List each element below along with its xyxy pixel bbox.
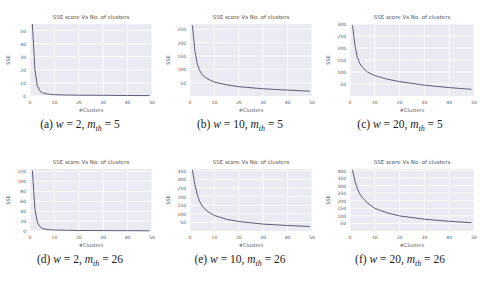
chart-title: SSE score Vs No. of clusters	[213, 14, 290, 20]
x-tick-label: 40	[446, 235, 452, 240]
y-tick-label: 40	[20, 42, 26, 47]
chart-a: 0102030405001020304050SSE score Vs No. o…	[0, 0, 160, 118]
panel-a: 0102030405001020304050SSE score Vs No. o…	[0, 0, 160, 140]
chart-d: 02040608010012001020304050SSE score Vs N…	[0, 145, 160, 253]
x-tick-label: 50	[309, 100, 315, 105]
x-axis-label: #Clusters	[79, 107, 104, 113]
chart-b: 5010015020025001020304050SSE score Vs No…	[160, 0, 320, 118]
y-tick-label: 250	[177, 186, 186, 191]
x-tick-label: 50	[149, 100, 155, 105]
y-tick-label: 50	[180, 81, 186, 86]
y-tick-label: 50	[180, 220, 186, 225]
x-tick-label: 40	[285, 100, 291, 105]
x-tick-label: 20	[76, 235, 82, 240]
chart-title: SSE score Vs No. of clusters	[53, 159, 130, 165]
y-tick-label: 40	[20, 209, 26, 214]
y-axis-label: SSE	[325, 195, 331, 205]
chart-f: 5010015020025030035040001020304050SSE sc…	[320, 145, 482, 253]
x-tick-label: 10	[372, 100, 378, 105]
x-tick-label: 30	[422, 100, 428, 105]
y-tick-label: 300	[337, 22, 346, 27]
y-axis-label: SSE	[165, 195, 171, 205]
x-tick-label: 40	[446, 100, 452, 105]
x-tick-label: 10	[212, 100, 218, 105]
y-tick-label: 120	[17, 169, 26, 174]
y-axis-label: SSE	[5, 195, 11, 205]
panel-e: 5010015020025030035001020304050SSE score…	[160, 145, 320, 283]
y-tick-label: 250	[337, 34, 346, 39]
x-tick-label: 50	[309, 235, 315, 240]
chart-title: SSE score Vs No. of clusters	[374, 159, 451, 165]
y-axis-label: SSE	[165, 55, 171, 65]
y-tick-label: 350	[337, 176, 346, 181]
x-axis-label: #Clusters	[239, 107, 264, 113]
plot-area	[30, 24, 152, 96]
panel-b: 5010015020025001020304050SSE score Vs No…	[160, 0, 320, 140]
plot-area	[190, 169, 312, 231]
chart-title: SSE score Vs No. of clusters	[374, 14, 451, 20]
x-axis-label: #Clusters	[239, 242, 264, 248]
y-tick-label: 0	[23, 229, 26, 234]
x-tick-label: 30	[260, 100, 266, 105]
x-tick-label: 20	[236, 100, 242, 105]
y-tick-label: 20	[20, 68, 26, 73]
y-tick-label: 350	[177, 169, 186, 174]
chart-c: 5010015020025030001020304050SSE score Vs…	[320, 0, 482, 118]
y-tick-label: 60	[20, 199, 26, 204]
y-tick-label: 150	[177, 203, 186, 208]
x-tick-label: 50	[471, 235, 477, 240]
y-tick-label: 150	[177, 54, 186, 59]
x-tick-label: 30	[100, 235, 106, 240]
y-tick-label: 150	[337, 58, 346, 63]
x-tick-label: 20	[397, 235, 403, 240]
x-axis-label: #Clusters	[400, 107, 425, 113]
x-tick-label: 40	[285, 235, 291, 240]
x-tick-label: 30	[260, 235, 266, 240]
y-tick-label: 250	[177, 27, 186, 32]
y-tick-label: 30	[20, 55, 26, 60]
y-tick-label: 300	[337, 184, 346, 189]
caption-c: (c) w = 20, mth = 5	[320, 118, 480, 133]
y-tick-label: 250	[337, 191, 346, 196]
plot-area	[190, 24, 312, 96]
panel-f: 5010015020025030035040001020304050SSE sc…	[320, 145, 480, 283]
y-tick-label: 50	[340, 82, 346, 87]
x-tick-label: 10	[372, 235, 378, 240]
chart-title: SSE score Vs No. of clusters	[53, 14, 130, 20]
x-tick-label: 20	[236, 235, 242, 240]
y-tick-label: 10	[20, 81, 26, 86]
y-tick-label: 20	[20, 219, 26, 224]
caption-a: (a) w = 2, mth = 5	[0, 118, 160, 133]
x-tick-label: 20	[397, 100, 403, 105]
x-tick-label: 0	[189, 235, 192, 240]
y-tick-label: 50	[20, 29, 26, 34]
y-tick-label: 100	[337, 70, 346, 75]
caption-f: (f) w = 20, mth = 26	[320, 253, 480, 268]
x-tick-label: 40	[125, 100, 131, 105]
panel-d: 02040608010012001020304050SSE score Vs N…	[0, 145, 160, 283]
y-tick-label: 150	[337, 206, 346, 211]
x-tick-label: 20	[76, 100, 82, 105]
x-tick-label: 10	[212, 235, 218, 240]
y-tick-label: 200	[337, 46, 346, 51]
caption-b: (b) w = 10, mth = 5	[160, 118, 320, 133]
plot-area	[30, 169, 152, 231]
y-tick-label: 400	[337, 169, 346, 174]
x-tick-label: 0	[349, 100, 352, 105]
x-tick-label: 0	[29, 235, 32, 240]
x-tick-label: 30	[100, 100, 106, 105]
x-tick-label: 10	[52, 235, 58, 240]
x-tick-label: 30	[422, 235, 428, 240]
y-tick-label: 200	[337, 199, 346, 204]
x-tick-label: 50	[471, 100, 477, 105]
x-axis-label: #Clusters	[400, 242, 425, 248]
y-tick-label: 100	[177, 67, 186, 72]
x-tick-label: 0	[189, 100, 192, 105]
y-tick-label: 0	[23, 94, 26, 99]
y-tick-label: 100	[17, 179, 26, 184]
x-tick-label: 40	[125, 235, 131, 240]
y-tick-label: 300	[177, 177, 186, 182]
y-tick-label: 100	[337, 214, 346, 219]
x-tick-label: 0	[29, 100, 32, 105]
y-axis-label: SSE	[5, 55, 11, 65]
